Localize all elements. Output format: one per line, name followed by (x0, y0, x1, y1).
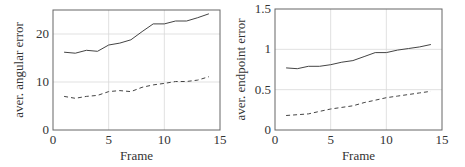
series-dashed-line (64, 77, 209, 99)
x-tick-label: 15 (436, 132, 449, 147)
y-tick-label: 1.5 (255, 1, 271, 16)
x-tick-label: 0 (272, 132, 279, 147)
y-axis-label: aver. angular error (11, 22, 26, 118)
plot-frame (53, 10, 220, 130)
endpoint-error-chart: 05101500.511.5Frameaver. endpoint error (233, 1, 449, 163)
plot-frame (275, 9, 442, 130)
figure: 05101501020Frameaver. angular error 0510… (0, 0, 465, 167)
chart-canvas: 05101501020Frameaver. angular error 0510… (0, 0, 465, 167)
y-tick-label: 0 (265, 122, 272, 137)
x-tick-label: 10 (158, 132, 171, 147)
x-axis-label: Frame (120, 148, 153, 163)
x-axis-label: Frame (342, 148, 375, 163)
series-solid-line (286, 45, 431, 69)
x-tick-label: 0 (50, 132, 57, 147)
grid-lines (275, 9, 442, 130)
series-solid-line (64, 14, 209, 53)
y-axis-label: aver. endpoint error (233, 18, 248, 121)
x-tick-label: 5 (105, 132, 112, 147)
y-tick-label: 0 (43, 122, 50, 137)
y-tick-label: 1 (265, 41, 272, 56)
series-dashed-line (286, 91, 431, 115)
y-tick-label: 20 (36, 26, 49, 41)
y-tick-label: 0.5 (255, 82, 271, 97)
x-tick-label: 5 (327, 132, 334, 147)
x-tick-label: 15 (214, 132, 227, 147)
angular-error-chart: 05101501020Frameaver. angular error (11, 10, 227, 163)
x-tick-label: 10 (380, 132, 393, 147)
grid-lines (53, 10, 220, 130)
y-tick-label: 10 (36, 74, 49, 89)
